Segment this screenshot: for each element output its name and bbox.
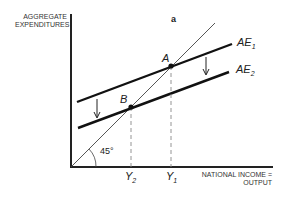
y-axis-label: AGGREGATE EXPENDITURES	[15, 13, 67, 29]
angle-label: 45°	[100, 146, 114, 156]
y1-tick-label: Y1	[166, 170, 177, 184]
point-b-label: B	[120, 93, 127, 105]
down-arrow-icon-right	[203, 57, 209, 75]
angle-arc	[89, 149, 96, 167]
y2-tick-label: Y2	[125, 170, 136, 184]
y-axis-label-line1: AGGREGATE	[15, 13, 67, 21]
point-a-marker	[168, 63, 173, 68]
point-a-label: A	[162, 52, 169, 64]
y-axis-label-line2: EXPENDITURES	[15, 21, 67, 29]
panel-label: a	[171, 14, 176, 24]
x-axis-label-line1: NATIONAL INCOME =	[200, 171, 272, 179]
ae1-line	[77, 44, 232, 102]
ae2-label: AE2	[236, 63, 255, 77]
x-axis-label-line2: OUTPUT	[200, 179, 272, 187]
diagram-aggregate-expenditures: AGGREGATE EXPENDITURES a AE1 AE2 A B 45°…	[0, 0, 289, 199]
ae2-line	[78, 72, 229, 128]
x-axis-label: NATIONAL INCOME = OUTPUT	[200, 171, 272, 187]
down-arrow-icon-left	[94, 99, 100, 118]
ae1-label: AE1	[237, 36, 256, 50]
diagram-canvas	[0, 0, 289, 199]
point-b-marker	[128, 104, 133, 109]
